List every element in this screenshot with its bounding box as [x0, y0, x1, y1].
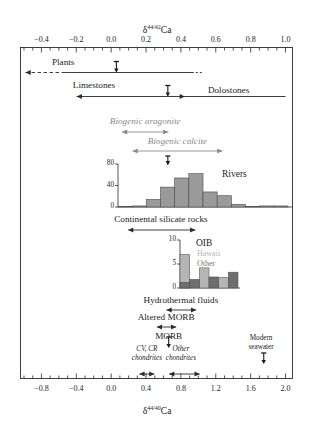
range-label-text: Hydrothermal fluids	[144, 296, 219, 305]
top-tick-label-1: −0.2	[60, 36, 92, 44]
range-label-text: Altered MORB	[138, 313, 195, 322]
mean-marker-modern-seawater	[261, 353, 266, 364]
top-tick-label-5: 0.6	[200, 36, 232, 44]
bottom-tick-label-3: 0.4	[130, 385, 162, 393]
oib-bar	[199, 268, 209, 288]
top-axis-title-superscript: 44/42	[147, 24, 161, 30]
oib-legend-other: Other	[197, 260, 215, 268]
range-label-biogenic-calcite: Biogenic calcite	[97, 137, 257, 146]
rivers-bar	[217, 196, 231, 207]
bottom-tick-label-2: 0.0	[95, 385, 127, 393]
range-label-altered-morb: Altered MORB	[86, 313, 246, 322]
range-label-hydrothermal-fluids: Hydrothermal fluids	[101, 296, 261, 305]
rivers-bar	[260, 206, 274, 207]
mean-marker-head	[114, 69, 118, 73]
top-tick-label-4: 0.4	[165, 36, 197, 44]
top-tick-label-3: 0.2	[130, 36, 162, 44]
rivers-histogram	[115, 156, 292, 207]
range-label-dolostones: Dolostones	[208, 86, 314, 95]
oib-bar	[228, 272, 238, 288]
range-label-plants: Plants	[52, 58, 252, 67]
oib-ytick-label-1: 5	[156, 260, 176, 267]
bottom-tick-label-0: −0.8	[25, 385, 57, 393]
plot-frame	[21, 48, 293, 379]
oib-title: OIB	[196, 239, 212, 249]
bottom-tick-label-7: 2.0	[270, 385, 302, 393]
range-label-text: Biogenic calcite	[148, 137, 207, 146]
range-label-biogenic-aragonite: Biogenic aragonite	[65, 117, 225, 126]
mean-marker-head	[166, 93, 170, 97]
rivers-mean-head	[166, 161, 170, 166]
top-tick-label-7: 1.0	[270, 36, 302, 44]
range-label-text: Plants	[52, 58, 74, 67]
range-label-other-chondrites: Other chondrites	[101, 345, 261, 362]
ca-isotope-figure: −0.4−0.20.00.20.40.60.81.0−0.8−0.40.00.4…	[0, 0, 314, 428]
rivers-bar	[274, 206, 288, 207]
rivers-bar	[161, 187, 175, 207]
oib-ytick-label-0: 0	[156, 284, 176, 291]
rivers-bar	[132, 206, 146, 207]
bottom-axis-title-superscript: 44/40	[147, 405, 161, 411]
range-label-text: Biogenic aragonite	[110, 117, 181, 126]
rivers-ytick-label-2: 80	[92, 160, 114, 167]
rivers-bar	[203, 192, 217, 207]
top-axis-title: δ44/42Ca	[0, 24, 314, 36]
rivers-title: Rivers	[222, 170, 247, 180]
range-label-continental-silicate-rocks: Continental silicate rocks	[81, 215, 241, 224]
oib-bar	[219, 277, 229, 288]
oib-bar	[190, 279, 200, 288]
bottom-axis-title-element: Ca	[161, 406, 172, 416]
rivers-ytick-label-0: 0	[92, 203, 114, 210]
bottom-tick-label-4: 0.8	[165, 385, 197, 393]
bottom-tick-label-6: 1.6	[235, 385, 267, 393]
top-tick-label-0: −0.4	[25, 36, 57, 44]
top-axis-title-element: Ca	[161, 25, 172, 35]
range-label-text: Other chondrites	[166, 345, 196, 362]
bottom-tick-label-1: −0.4	[60, 385, 92, 393]
oib-ytick-label-2: 10	[156, 236, 176, 243]
oib-legend-hawaii: Hawaii	[197, 250, 220, 258]
bottom-axis-title: δ44/40Ca	[0, 405, 314, 417]
rivers-bar	[118, 206, 132, 207]
range-label-text: Dolostones	[208, 86, 249, 95]
rivers-bar	[175, 178, 189, 207]
oib-bar	[180, 282, 190, 288]
bottom-tick-label-5: 1.2	[200, 385, 232, 393]
range-label-text: Continental silicate rocks	[114, 215, 207, 224]
mean-marker-head	[262, 360, 266, 364]
top-tick-label-6: 0.8	[235, 36, 267, 44]
rivers-bar	[146, 199, 160, 207]
rivers-bar	[231, 204, 245, 207]
oib-bar	[209, 277, 219, 288]
top-tick-label-2: 0.0	[95, 36, 127, 44]
top-axis-ticks	[24, 48, 286, 53]
rivers-ytick-label-1: 40	[92, 182, 114, 189]
bottom-axis-ticks	[24, 374, 286, 379]
range-label-text: Limestones	[73, 81, 115, 90]
rivers-bar	[246, 206, 260, 207]
range-label-text: MORB	[155, 332, 182, 341]
rivers-bar	[189, 174, 203, 207]
